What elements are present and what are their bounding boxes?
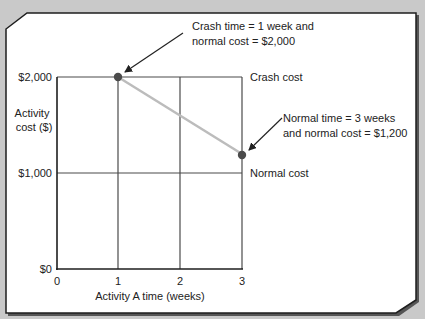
chart-panel (6, 13, 416, 313)
y-axis-label-line1: Activity (15, 107, 50, 119)
x-axis-label: Activity A time (weeks) (95, 290, 204, 302)
crash-annotation-line2: normal cost = $2,000 (192, 35, 295, 47)
x-tick-3: 3 (239, 275, 245, 287)
crash-point (114, 73, 122, 81)
x-tick-0: 0 (54, 275, 60, 287)
normal-annotation-line1: Normal time = 3 weeks (283, 112, 396, 124)
chart: $2,000 $1,000 $0 Activity cost ($) 0 1 2… (0, 0, 425, 319)
y-tick-0: $0 (40, 263, 52, 275)
normal-annotation-line2: and normal cost = $1,200 (283, 127, 407, 139)
normal-point (238, 151, 246, 159)
x-tick-2: 2 (177, 275, 183, 287)
x-tick-1: 1 (115, 275, 121, 287)
y-tick-1000: $1,000 (18, 167, 52, 179)
y-axis-label-line2: cost ($) (16, 121, 53, 133)
normal-cost-label: Normal cost (250, 167, 309, 179)
y-tick-2000: $2,000 (18, 71, 52, 83)
crash-cost-label: Crash cost (250, 71, 303, 83)
crash-annotation-line1: Crash time = 1 week and (192, 20, 314, 32)
